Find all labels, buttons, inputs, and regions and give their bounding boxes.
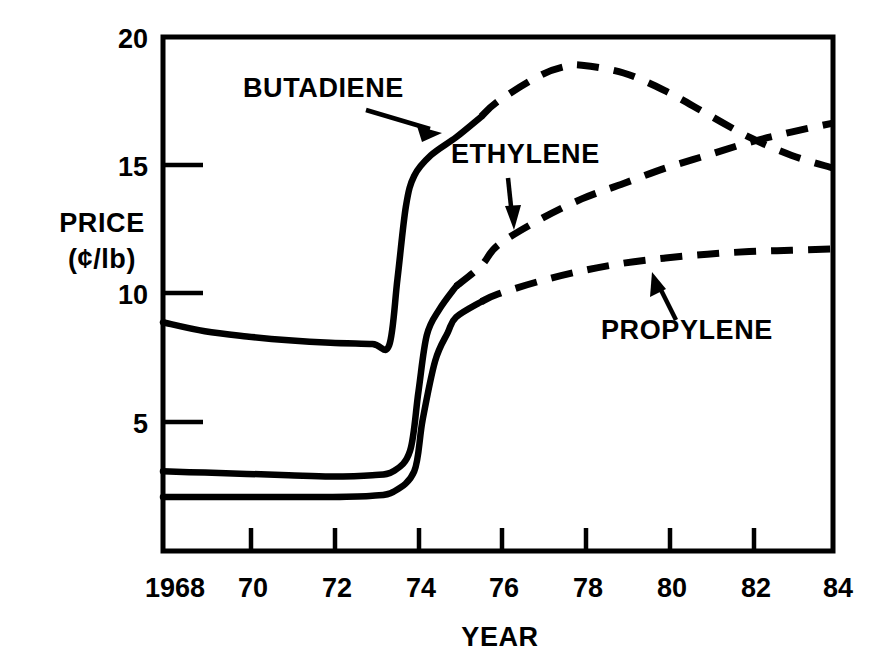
y-tick-label-5: 5: [133, 409, 148, 439]
series-line-propylene-forecast: [481, 249, 833, 302]
series-layer: [163, 65, 833, 497]
x-tick-label-1970: 70: [238, 573, 268, 603]
x-tick-label-1976: 76: [489, 573, 519, 603]
x-tick-label-1968: 1968: [145, 573, 205, 603]
y-axis-title: PRICE (¢/lb): [59, 208, 145, 274]
series-line-ethylene-historical: [163, 286, 456, 476]
x-axis-title-year: YEAR: [461, 622, 538, 652]
x-tick-labels: 1968 70 72 74 76 78 80 82 84: [145, 573, 853, 603]
y-tick-label-20: 20: [118, 24, 148, 54]
butadiene-arrow-shaft: [366, 110, 430, 129]
y-axis-ticks: [163, 165, 203, 422]
annotation-propylene: PROPYLENE: [601, 272, 773, 345]
y-axis-title-units: (¢/lb): [68, 244, 136, 274]
series-label-propylene: PROPYLENE: [601, 315, 773, 345]
y-tick-label-10: 10: [118, 280, 148, 310]
x-tick-label-1982: 82: [741, 573, 771, 603]
price-year-line-chart: 20 15 10 5 PRICE (¢/lb) 1968 70 72 74 76…: [0, 0, 878, 664]
series-label-ethylene: ETHYLENE: [451, 139, 600, 169]
ethylene-arrow-head: [505, 205, 521, 230]
x-tick-label-1974: 74: [406, 573, 436, 603]
annotation-ethylene: ETHYLENE: [451, 139, 600, 230]
x-tick-label-1984: 84: [823, 573, 853, 603]
y-axis-title-price: PRICE: [59, 208, 145, 238]
chart-figure: 20 15 10 5 PRICE (¢/lb) 1968 70 72 74 76…: [0, 0, 878, 664]
y-tick-label-15: 15: [118, 152, 148, 182]
series-label-butadiene: BUTADIENE: [243, 73, 404, 103]
annotation-butadiene: BUTADIENE: [243, 73, 442, 142]
x-axis-ticks: [251, 528, 754, 551]
x-tick-label-1978: 78: [573, 573, 603, 603]
x-tick-label-1972: 72: [322, 573, 352, 603]
x-tick-label-1980: 80: [657, 573, 687, 603]
